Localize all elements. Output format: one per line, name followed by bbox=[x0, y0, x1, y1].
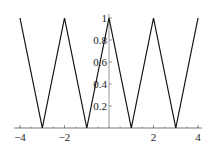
y-tick-label: 0.2 bbox=[93, 100, 107, 112]
plot: −4−224 0.20.40.60.81 bbox=[0, 0, 214, 146]
x-tick-label: −2 bbox=[59, 131, 71, 143]
x-tick-label: −4 bbox=[14, 131, 26, 143]
x-tick-label: 4 bbox=[195, 131, 201, 143]
y-tick-label: 1 bbox=[102, 12, 108, 24]
x-tick-label: 2 bbox=[151, 131, 157, 143]
y-axis: 0.20.40.60.81 bbox=[93, 12, 112, 128]
